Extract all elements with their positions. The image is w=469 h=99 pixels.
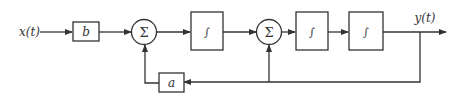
integrator-1-symbol: ∫ bbox=[204, 26, 210, 39]
output-feedback-line bbox=[269, 32, 420, 82]
gain-a-block: a bbox=[159, 73, 184, 92]
summer-2-symbol: Σ bbox=[264, 25, 273, 40]
summer-2: Σ bbox=[257, 20, 282, 45]
summer-1-symbol: Σ bbox=[139, 25, 148, 40]
input-label: x(t) bbox=[19, 25, 40, 39]
gain-b-label: b bbox=[82, 25, 90, 39]
output-label: y(t) bbox=[414, 11, 436, 25]
gain-b-block: b bbox=[73, 22, 99, 41]
integrator-3-block: ∫ bbox=[349, 12, 383, 50]
integrator-2-symbol: ∫ bbox=[309, 26, 315, 39]
block-diagram: x(t) b Σ ∫ Σ ∫ ∫ y(t) bbox=[0, 0, 469, 99]
integrator-1-block: ∫ bbox=[191, 12, 223, 50]
summer-1: Σ bbox=[132, 20, 157, 45]
integrator-2-block: ∫ bbox=[296, 12, 328, 50]
integrator-3-symbol: ∫ bbox=[363, 26, 369, 39]
a-to-sum1-arrow bbox=[145, 45, 159, 83]
gain-a-label: a bbox=[168, 76, 175, 90]
